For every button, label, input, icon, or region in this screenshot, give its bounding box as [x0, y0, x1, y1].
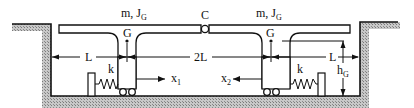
left-spring-label: k — [108, 62, 114, 76]
left-mass-label: m, JG — [121, 6, 147, 22]
right-spring-label: k — [297, 62, 303, 76]
hinge-c — [201, 25, 208, 32]
x2-label: x2 — [221, 71, 231, 87]
left-g-label: G — [123, 26, 132, 40]
right-mass-label: m, JG — [256, 6, 282, 22]
right-g-label: G — [266, 26, 275, 40]
hg-label: hG — [337, 63, 349, 79]
x1-label: x1 — [171, 71, 181, 87]
mechanical-diagram: m, JG m, JG C G G L 2L L k k x1 x2 hG — [0, 0, 414, 108]
left-l-label: L — [85, 50, 92, 64]
center-2l-label: 2L — [194, 50, 207, 64]
right-l-label: L — [329, 50, 336, 64]
hinge-label: C — [201, 8, 209, 22]
right-spring — [290, 73, 325, 96]
left-spring — [88, 73, 118, 96]
